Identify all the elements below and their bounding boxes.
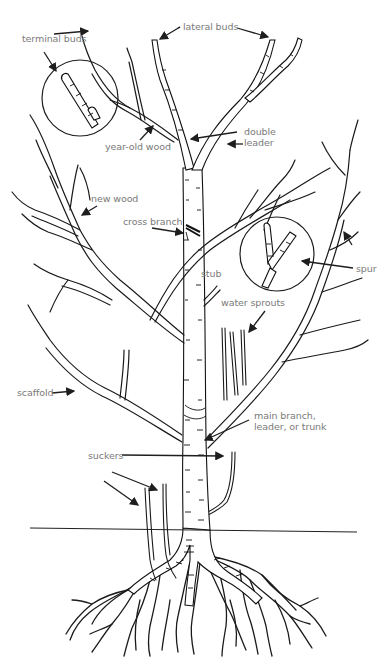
label-water-sprouts: water sprouts <box>221 297 285 308</box>
arrow-terminal-buds-2 <box>44 52 56 71</box>
arrow-main-branch <box>205 420 249 440</box>
tree-diagram: terminal buds lateral buds year-old wood… <box>0 0 385 658</box>
arrow-water-sprouts <box>249 311 265 332</box>
tree-illustration <box>0 0 385 658</box>
arrow-suckers-1 <box>112 472 157 490</box>
arrow-year-old-wood <box>140 126 153 140</box>
arrow-suckers-2 <box>104 481 138 505</box>
arrow-scaffold <box>52 391 74 393</box>
upper-leaders <box>152 38 302 170</box>
arrow-spur-2 <box>302 261 353 268</box>
arrow-lateral-buds-2 <box>237 28 268 37</box>
label-suckers: suckers <box>88 450 123 461</box>
label-double-leader: double leader <box>244 126 276 148</box>
spur-magnifier <box>240 217 314 291</box>
arrow-new-wood <box>82 206 97 215</box>
label-year-old-wood: year-old wood <box>105 141 171 152</box>
label-cross-branch: cross branch <box>123 216 182 227</box>
label-spur: spur <box>356 263 377 274</box>
label-main-branch: main branch, leader, or trunk <box>254 410 326 432</box>
label-stub: stub <box>201 268 221 279</box>
label-lateral-buds: lateral buds <box>183 21 238 32</box>
arrow-lateral-buds-1 <box>160 27 180 39</box>
trunk <box>183 168 210 530</box>
arrow-cross-branch <box>152 228 183 233</box>
label-scaffold: scaffold <box>17 387 53 398</box>
water-sprouts <box>222 328 246 400</box>
label-new-wood: new wood <box>91 193 138 204</box>
terminal-buds-magnifier <box>42 60 118 136</box>
arrow-suckers-3 <box>122 455 223 456</box>
label-terminal-buds: terminal buds <box>22 33 86 44</box>
